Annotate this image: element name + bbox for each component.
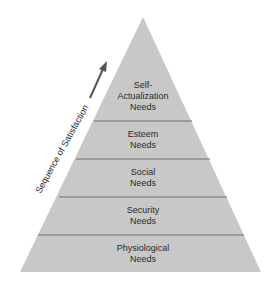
- level-text: Esteem: [128, 129, 159, 140]
- pyramid-diagram: Self- Actualization Needs Esteem Needs S…: [0, 0, 279, 284]
- level-text: Physiological: [117, 243, 170, 254]
- level-self-actualization: Self- Actualization Needs: [117, 80, 168, 113]
- level-text: Needs: [127, 216, 160, 227]
- level-text: Social: [130, 167, 156, 178]
- level-esteem: Esteem Needs: [128, 129, 159, 151]
- level-text: Self-: [117, 80, 168, 91]
- level-text: Needs: [128, 140, 159, 151]
- level-text: Actualization: [117, 91, 168, 102]
- level-text: Security: [127, 205, 160, 216]
- level-text: Needs: [130, 178, 156, 189]
- level-physiological: Physiological Needs: [117, 243, 170, 265]
- level-text: Needs: [117, 254, 170, 265]
- level-social: Social Needs: [130, 167, 156, 189]
- level-text: Needs: [117, 102, 168, 113]
- arrow-up-icon: [90, 61, 107, 98]
- level-security: Security Needs: [127, 205, 160, 227]
